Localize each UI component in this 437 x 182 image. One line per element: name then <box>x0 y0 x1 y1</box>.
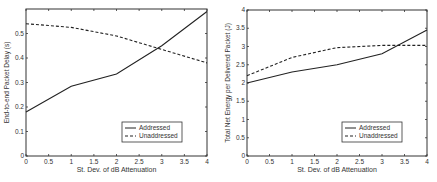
y-tick-label: 2 <box>241 79 245 86</box>
y-tick-label: 0.3 <box>15 79 24 86</box>
series-line-addressed <box>26 11 207 111</box>
legend-label: Unaddressed <box>139 132 178 139</box>
x-tick-label: 3.5 <box>180 158 189 165</box>
y-axis-label: Total Net Energy per Delivered Packet (J… <box>224 23 232 143</box>
x-tick-label: 1 <box>69 158 73 165</box>
y-tick-label: 0 <box>20 152 24 159</box>
x-tick-label: 1 <box>290 158 294 165</box>
x-axis-label: St. Dev. of dB Attenuation <box>297 166 377 173</box>
y-tick-label: 2.5 <box>236 61 245 68</box>
legend-label: Addressed <box>359 124 390 131</box>
x-axis-label: St. Dev. of dB Attenuation <box>77 166 157 173</box>
legend-label: Unaddressed <box>359 132 398 139</box>
y-tick-label: 4 <box>241 6 245 13</box>
legend: AddressedUnaddressed <box>122 122 182 142</box>
x-tick-label: 2 <box>335 158 339 165</box>
energy-chart: 00.511.522.533.5400.511.522.533.54St. De… <box>218 0 437 182</box>
x-tick-label: 0.5 <box>44 158 53 165</box>
y-tick-label: 0.2 <box>15 103 24 110</box>
y-tick-label: 0.1 <box>15 128 24 135</box>
x-tick-label: 3 <box>160 158 164 165</box>
x-tick-label: 4 <box>205 158 209 165</box>
x-tick-label: 1.5 <box>310 158 319 165</box>
y-axis-label: End-to-end Packet Delay (s) <box>3 42 11 124</box>
x-tick-label: 0 <box>245 158 249 165</box>
y-tick-label: 0.5 <box>15 30 24 37</box>
x-tick-label: 0 <box>24 158 28 165</box>
x-tick-label: 2.5 <box>135 158 144 165</box>
y-tick-label: 1.5 <box>236 97 245 104</box>
y-tick-label: 3 <box>241 43 245 50</box>
y-tick-label: 0 <box>241 152 245 159</box>
x-tick-label: 0.5 <box>265 158 274 165</box>
series-line-unaddressed <box>26 24 207 63</box>
legend-label: Addressed <box>139 124 170 131</box>
delay-chart-svg: 00.511.522.533.5400.10.20.30.40.5St. Dev… <box>0 0 218 182</box>
x-tick-label: 3 <box>380 158 384 165</box>
x-tick-label: 2 <box>115 158 119 165</box>
x-tick-label: 1.5 <box>89 158 98 165</box>
y-tick-label: 0.4 <box>15 54 24 61</box>
y-tick-label: 1 <box>241 116 245 123</box>
x-tick-label: 4 <box>425 158 429 165</box>
x-tick-label: 2.5 <box>355 158 364 165</box>
series-line-addressed <box>247 30 427 83</box>
x-tick-label: 3.5 <box>400 158 409 165</box>
series-line-unaddressed <box>247 45 427 75</box>
y-tick-label: 0.5 <box>236 134 245 141</box>
legend: AddressedUnaddressed <box>342 122 402 142</box>
energy-chart-svg: 00.511.522.533.5400.511.522.533.54St. De… <box>218 0 437 182</box>
y-tick-label: 3.5 <box>236 24 245 31</box>
delay-chart: 00.511.522.533.5400.10.20.30.40.5St. Dev… <box>0 0 218 182</box>
